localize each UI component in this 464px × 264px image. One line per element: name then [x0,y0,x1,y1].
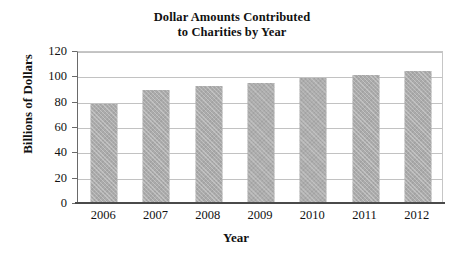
y-tick-label: 100 [39,70,67,82]
x-tick-label: 2008 [178,208,238,222]
y-tick-label: 120 [39,45,67,57]
bar-slot [287,52,339,203]
y-tick-label: 20 [39,172,67,184]
y-tick-label: 40 [39,146,67,158]
x-tick-label: 2011 [335,208,395,222]
y-tick-label: 60 [39,121,67,133]
chart-title: Dollar Amounts Contributed to Charities … [0,10,464,40]
y-tick-label: 80 [39,96,67,108]
bar-slot [78,52,130,203]
x-tick-label: 2009 [230,208,290,222]
bar [247,83,274,203]
bar [195,86,222,203]
x-tick-label: 2010 [282,208,342,222]
chart-title-line-1: Dollar Amounts Contributed [0,10,464,25]
bar [404,71,431,203]
bar-slot [392,52,444,203]
x-axis-title: Year [77,230,395,246]
bar-slot [339,52,391,203]
y-tick-label: 0 [39,197,67,209]
bar-slot [183,52,235,203]
x-axis-line [75,202,445,204]
x-tick-label: 2006 [73,208,133,222]
x-tick-label: 2007 [125,208,185,222]
bars-layer [78,52,442,203]
bar-chart-figure: Dollar Amounts Contributed to Charities … [0,0,464,264]
bar [352,75,379,203]
plot-area [77,51,443,203]
bar [91,104,118,203]
x-tick-label: 2012 [387,208,447,222]
y-axis-title: Billions of Dollars [20,29,36,179]
bar-slot [130,52,182,203]
bar [143,90,170,203]
chart-title-line-2: to Charities by Year [0,25,464,40]
bar-slot [235,52,287,203]
bar [300,78,327,203]
